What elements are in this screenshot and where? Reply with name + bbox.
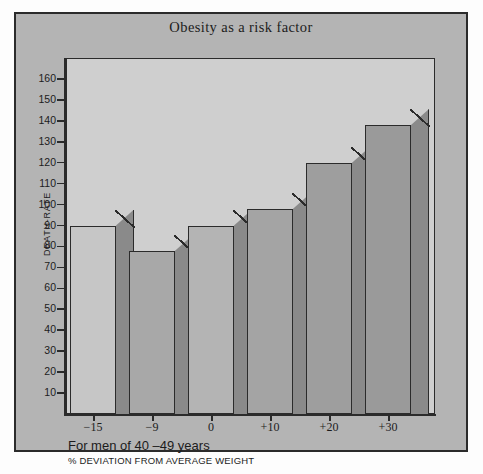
x-tick-label: +20 — [299, 420, 359, 435]
x-axis-line — [64, 414, 436, 416]
x-tick-label: −15 — [63, 420, 123, 435]
y-tick — [57, 246, 66, 248]
y-tick-label: 20 — [22, 365, 56, 377]
y-tick-label: 60 — [22, 281, 56, 293]
y-tick — [57, 350, 66, 352]
y-tick — [57, 78, 66, 80]
y-tick-label: 40 — [22, 323, 56, 335]
bar — [306, 163, 352, 414]
y-tick-label: 160 — [22, 72, 56, 84]
y-axis-line — [64, 58, 66, 416]
bar-front-face — [365, 125, 411, 414]
chart-figure: Obesity as a risk factor 102030405060708… — [0, 0, 483, 474]
chart-card: Obesity as a risk factor 102030405060708… — [14, 12, 468, 452]
y-tick — [57, 371, 66, 373]
bar-top-edge — [410, 109, 430, 127]
y-tick-label: 120 — [22, 156, 56, 168]
y-tick-label: 130 — [22, 135, 56, 147]
y-tick — [57, 99, 66, 101]
bar — [365, 125, 411, 414]
x-axis-title: % DEVIATION FROM AVERAGE WEIGHT — [68, 455, 254, 466]
bar-front-face — [306, 163, 352, 414]
bar-front-face — [70, 226, 116, 414]
chart-title: Obesity as a risk factor — [16, 19, 466, 36]
x-tick-label: +10 — [240, 420, 300, 435]
bar-top-edge — [115, 210, 135, 228]
y-tick-label: 140 — [22, 114, 56, 126]
x-tick-label: −9 — [122, 420, 182, 435]
bar — [247, 209, 293, 414]
y-tick — [57, 204, 66, 206]
y-tick — [57, 162, 66, 164]
y-tick — [57, 308, 66, 310]
y-tick — [57, 120, 66, 122]
y-tick-label: 10 — [22, 386, 56, 398]
x-tick-label: 0 — [181, 420, 241, 435]
bar — [188, 226, 234, 414]
y-tick — [57, 392, 66, 394]
bar-side-face — [411, 109, 429, 414]
y-tick — [57, 329, 66, 331]
bar-front-face — [188, 226, 234, 414]
y-tick — [57, 141, 66, 143]
y-tick — [57, 267, 66, 269]
y-tick — [57, 288, 66, 290]
chart-subtitle: For men of 40 –49 years — [68, 438, 210, 453]
y-tick — [57, 183, 66, 185]
bar — [129, 251, 175, 414]
y-tick-label: 30 — [22, 344, 56, 356]
y-tick-label: 150 — [22, 93, 56, 105]
bar — [70, 226, 116, 414]
y-tick-label: 50 — [22, 302, 56, 314]
y-tick — [57, 225, 66, 227]
y-axis-title: DEATH-RATE — [42, 179, 52, 269]
x-tick-label: +30 — [358, 420, 418, 435]
bar-front-face — [247, 209, 293, 414]
bar-front-face — [129, 251, 175, 414]
